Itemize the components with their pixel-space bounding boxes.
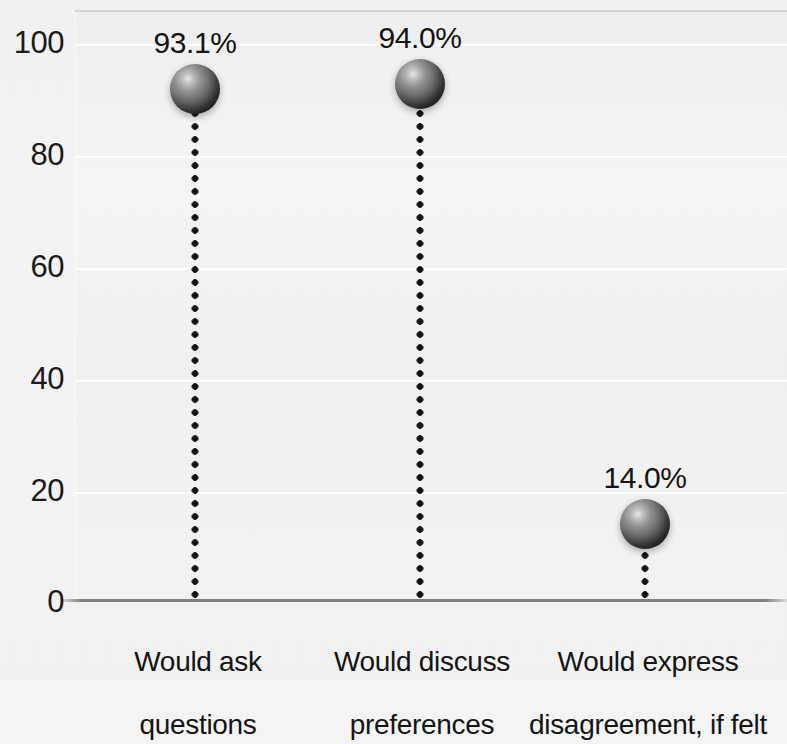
x-category-line-2: disagreement, if felt xyxy=(508,709,787,740)
x-category-label-would-express-disagreement: Would express disagreement, if felt xyxy=(508,615,787,744)
x-category-line-1: Would ask xyxy=(83,646,313,677)
data-label-would-discuss-preferences: 94.0% xyxy=(378,23,461,53)
x-category-line-1: Would express xyxy=(508,646,787,677)
x-category-label-would-ask-questions: Would ask questions xyxy=(83,615,313,744)
stem-would-discuss-preferences xyxy=(417,103,424,601)
stem-would-express-disagreement xyxy=(642,548,649,601)
data-label-would-express-disagreement: 14.0% xyxy=(603,463,686,493)
gridline-40 xyxy=(75,380,787,382)
y-tick-label-20: 20 xyxy=(2,475,64,506)
gridline-80 xyxy=(75,156,787,158)
y-tick-label-40: 40 xyxy=(2,363,64,394)
x-category-label-would-discuss-preferences: Would discuss preferences xyxy=(302,615,542,744)
gridline-60 xyxy=(75,268,787,270)
y-tick-label-60: 60 xyxy=(2,251,64,282)
y-tick-label-0: 0 xyxy=(2,586,64,617)
data-point-would-discuss-preferences[interactable] xyxy=(395,59,445,109)
y-tick-label-100: 100 xyxy=(2,27,64,58)
x-category-line-2: questions xyxy=(83,709,313,740)
data-label-would-ask-questions: 93.1% xyxy=(153,28,236,58)
data-point-would-ask-questions[interactable] xyxy=(170,64,220,114)
stem-would-ask-questions xyxy=(192,108,199,601)
y-tick-label-80: 80 xyxy=(2,139,64,170)
data-point-would-express-disagreement[interactable] xyxy=(620,499,670,549)
x-category-line-1: Would discuss xyxy=(302,646,542,677)
x-category-line-2: preferences xyxy=(302,709,542,740)
x-axis-line xyxy=(60,599,787,602)
